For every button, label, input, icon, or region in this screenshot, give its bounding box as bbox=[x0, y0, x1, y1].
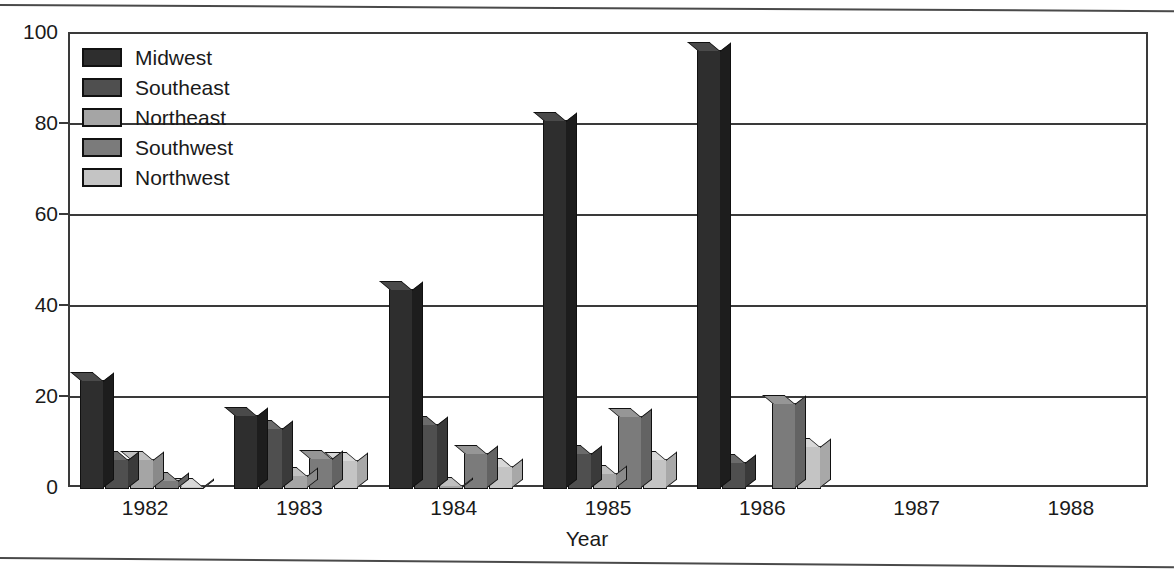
bar-side-face bbox=[512, 459, 523, 488]
bar-northwest-1982 bbox=[180, 486, 204, 489]
legend-swatch-southeast bbox=[82, 78, 122, 97]
bar-northeast-1984 bbox=[439, 485, 463, 489]
legend-label-northeast: Northeast bbox=[135, 107, 226, 128]
gridline-40 bbox=[70, 305, 1146, 307]
bar-side-face bbox=[357, 453, 368, 488]
legend-label-southwest: Southwest bbox=[135, 137, 233, 158]
chart-legend: MidwestSoutheastNortheastSouthwestNorthw… bbox=[82, 42, 262, 192]
y-tick-label-60: 60 bbox=[6, 203, 58, 224]
legend-swatch-midwest bbox=[82, 48, 122, 67]
x-tick-label-1988: 1988 bbox=[994, 497, 1148, 519]
bar-top-face bbox=[608, 408, 641, 417]
bar-side-face bbox=[720, 42, 731, 488]
x-tick-label-1984: 1984 bbox=[377, 497, 531, 519]
legend-label-midwest: Midwest bbox=[135, 47, 212, 68]
bar-midwest-1982 bbox=[80, 380, 104, 489]
bar-southwest-1986 bbox=[772, 403, 796, 489]
bar-side-face bbox=[412, 281, 423, 488]
y-tick-mark-80 bbox=[59, 122, 68, 124]
x-tick-label-1983: 1983 bbox=[222, 497, 376, 519]
bar-side-face bbox=[437, 417, 448, 488]
bar-midwest-1986 bbox=[697, 50, 721, 489]
x-tick-label-1982: 1982 bbox=[68, 497, 222, 519]
gridline-20 bbox=[70, 396, 1146, 398]
y-tick-label-100: 100 bbox=[6, 21, 58, 42]
y-tick-label-20: 20 bbox=[6, 385, 58, 406]
legend-swatch-northwest bbox=[82, 168, 122, 187]
bar-chart-figure: 020406080100 198219831984198519861987198… bbox=[0, 0, 1174, 576]
y-tick-label-80: 80 bbox=[6, 112, 58, 133]
y-tick-label-40: 40 bbox=[6, 294, 58, 315]
legend-item-southwest: Southwest bbox=[82, 132, 262, 162]
legend-item-midwest: Midwest bbox=[82, 42, 262, 72]
x-tick-label-1987: 1987 bbox=[839, 497, 993, 519]
bar-side-face bbox=[103, 372, 114, 488]
legend-item-northeast: Northeast bbox=[82, 102, 262, 132]
legend-item-northwest: Northwest bbox=[82, 162, 262, 192]
legend-item-southeast: Southeast bbox=[82, 72, 262, 102]
legend-label-northwest: Northwest bbox=[135, 167, 230, 188]
bar-side-face bbox=[641, 409, 652, 488]
y-tick-mark-60 bbox=[59, 213, 68, 215]
bar-side-face bbox=[203, 478, 214, 489]
bar-side-face bbox=[282, 421, 293, 488]
x-tick-label-1986: 1986 bbox=[685, 497, 839, 519]
x-axis-title: Year bbox=[0, 528, 1174, 550]
y-tick-label-0: 0 bbox=[6, 476, 58, 497]
bar-midwest-1985 bbox=[543, 120, 567, 489]
bar-top-face bbox=[687, 42, 720, 51]
bar-top-face bbox=[70, 372, 103, 381]
bar-side-face bbox=[257, 407, 268, 488]
bar-midwest-1983 bbox=[234, 415, 258, 489]
y-tick-mark-40 bbox=[59, 304, 68, 306]
legend-swatch-southwest bbox=[82, 138, 122, 157]
x-tick-label-1985: 1985 bbox=[531, 497, 685, 519]
bar-side-face bbox=[820, 438, 831, 488]
y-tick-mark-20 bbox=[59, 395, 68, 397]
bar-top-face bbox=[225, 407, 258, 416]
gridline-60 bbox=[70, 214, 1146, 216]
bar-side-face bbox=[666, 452, 677, 488]
bar-top-face bbox=[379, 281, 412, 290]
bar-midwest-1984 bbox=[389, 289, 413, 489]
bar-side-face bbox=[566, 113, 577, 488]
legend-label-southeast: Southeast bbox=[135, 77, 230, 98]
bar-side-face bbox=[795, 395, 806, 488]
bar-side-face bbox=[745, 454, 756, 488]
legend-swatch-northeast bbox=[82, 108, 122, 127]
bar-top-face bbox=[454, 445, 487, 454]
bar-top-face bbox=[533, 112, 566, 121]
